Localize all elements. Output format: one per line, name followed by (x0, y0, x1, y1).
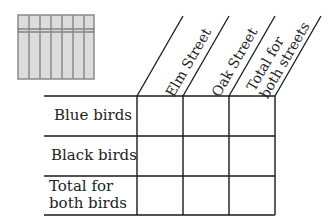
row-label-black-birds: Black birds (51, 147, 137, 164)
fence-icon (18, 15, 94, 79)
row-label-text: Blue birds (54, 106, 132, 124)
row-label-total-both-birds: Total for both birds (49, 178, 127, 212)
row-label-text-line2: both birds (49, 195, 127, 212)
row-label-blue-birds: Blue birds (54, 107, 132, 124)
row-label-text-line1: Total for (49, 178, 127, 195)
row-label-text: Black birds (51, 146, 137, 164)
